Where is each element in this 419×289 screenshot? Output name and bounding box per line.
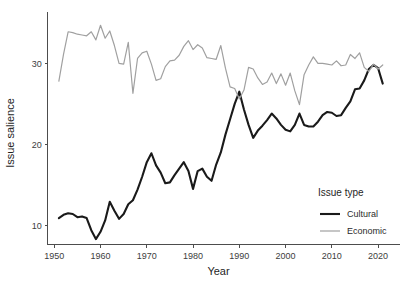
y-axis-title: Issue salience — [4, 98, 16, 168]
legend-title: Issue type — [318, 187, 364, 198]
chart-background — [0, 0, 419, 289]
x-tick-label: 1950 — [44, 251, 64, 261]
x-tick-label: 1970 — [137, 251, 157, 261]
legend-label-cultural: Cultural — [347, 209, 378, 219]
legend-label-economic: Economic — [347, 226, 387, 236]
y-tick-label: 30 — [32, 59, 42, 69]
issue-salience-line-chart: 10203019501960197019801990200020102020Ye… — [0, 0, 419, 289]
x-tick-label: 1980 — [183, 251, 203, 261]
chart-figure: 10203019501960197019801990200020102020Ye… — [0, 0, 419, 289]
x-tick-label: 2020 — [368, 251, 388, 261]
y-tick-label: 10 — [32, 221, 42, 231]
x-tick-label: 2010 — [322, 251, 342, 261]
y-tick-label: 20 — [32, 140, 42, 150]
x-tick-label: 1960 — [91, 251, 111, 261]
x-tick-label: 2000 — [276, 251, 296, 261]
x-tick-label: 1990 — [229, 251, 249, 261]
x-axis-title: Year — [207, 265, 230, 277]
